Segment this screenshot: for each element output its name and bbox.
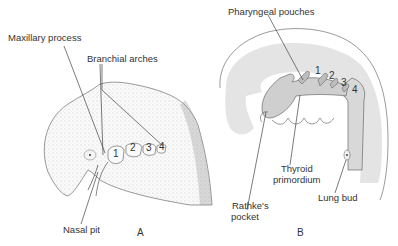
panel-b-letter: B <box>297 227 304 238</box>
label-pharyngeal-pouches: Pharyngeal pouches <box>228 6 315 17</box>
label-rathke-line1: Rathke's <box>232 200 269 211</box>
label-branchial-arches: Branchial arches <box>87 53 158 64</box>
svg-text:2: 2 <box>130 142 136 153</box>
label-rathke-line2: pocket <box>231 211 259 222</box>
label-thyroid-line1: Thyroid <box>281 163 313 174</box>
panel-a-embryo: 1 2 3 4 <box>44 82 212 205</box>
label-maxillary-process: Maxillary process <box>8 32 82 43</box>
panel-a-letter: A <box>137 227 144 238</box>
label-lung-bud: Lung bud <box>318 192 358 203</box>
label-nasal-pit: Nasal pit <box>63 224 100 235</box>
svg-text:2: 2 <box>329 70 335 81</box>
embryo-pharyngeal-diagram: 1 2 3 4 Maxillary process Branchial arch… <box>0 0 398 246</box>
svg-text:1: 1 <box>315 65 321 76</box>
svg-text:3: 3 <box>341 77 347 88</box>
svg-text:1: 1 <box>113 148 119 159</box>
svg-text:4: 4 <box>352 84 358 95</box>
embryo-head-outline <box>44 82 212 205</box>
label-thyroid-line2: primordium <box>273 174 321 185</box>
svg-text:3: 3 <box>146 142 152 153</box>
svg-text:4: 4 <box>159 141 165 152</box>
